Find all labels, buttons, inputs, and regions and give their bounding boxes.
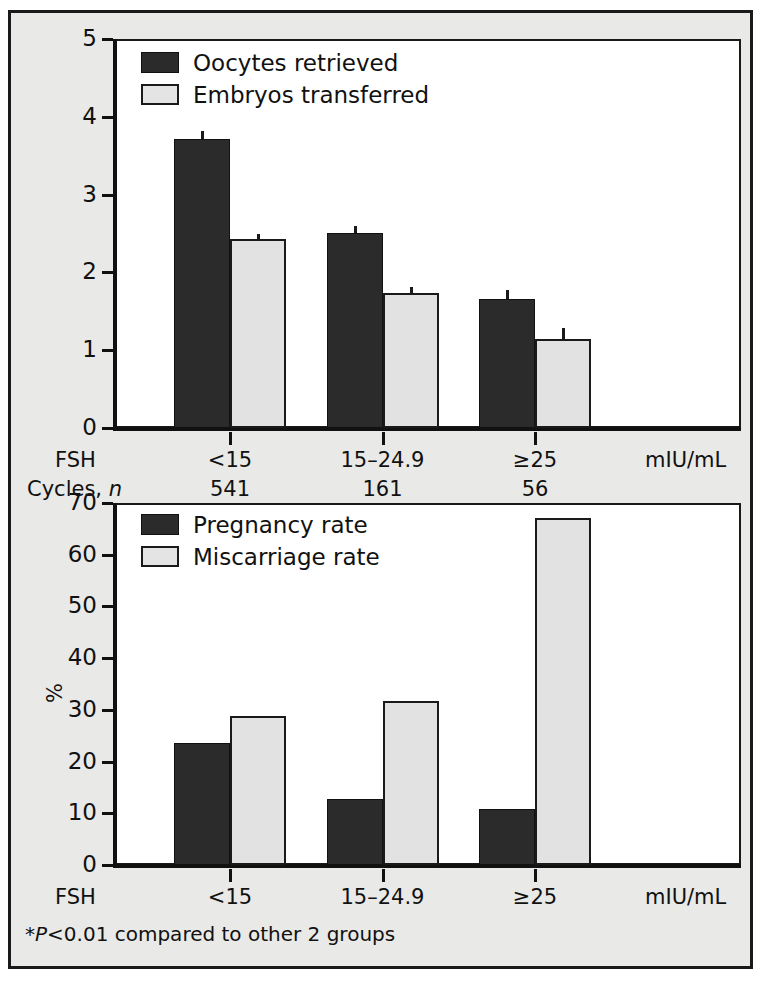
y-tick-label: 4 bbox=[35, 105, 97, 128]
bar bbox=[383, 293, 439, 428]
unit-label-bottom: mIU/mL bbox=[645, 887, 726, 908]
y-tick-label: 0 bbox=[35, 416, 97, 439]
y-axis-title-bottom: % bbox=[45, 683, 66, 703]
y-tick-label: 70 bbox=[35, 491, 97, 514]
bar bbox=[174, 139, 230, 428]
legend-swatch-pregnancy bbox=[141, 514, 179, 535]
bar bbox=[230, 239, 286, 428]
y-tick bbox=[102, 605, 113, 608]
unit-label-top: mIU/mL bbox=[645, 450, 726, 471]
legend-swatch-embryos bbox=[141, 84, 179, 105]
y-tick-label: 10 bbox=[35, 801, 97, 824]
footnote-p: P bbox=[35, 922, 47, 946]
footnote-text: <0.01 compared to other 2 groups bbox=[47, 922, 395, 946]
y-tick-label: 50 bbox=[35, 594, 97, 617]
bar bbox=[174, 743, 230, 865]
y-tick-label: 0 bbox=[35, 853, 97, 876]
x-tick-label: ≥25 bbox=[455, 887, 615, 908]
y-tick-label: 5 bbox=[35, 27, 97, 50]
x-tick-label: ≥25 bbox=[455, 450, 615, 471]
y-tick bbox=[102, 502, 113, 505]
bar bbox=[479, 809, 535, 865]
error-bar bbox=[257, 234, 260, 239]
legend-label-miscarriage: Miscarriage rate bbox=[193, 543, 380, 571]
bar bbox=[535, 339, 591, 428]
error-bar bbox=[410, 287, 413, 292]
y-tick bbox=[102, 709, 113, 712]
x-tick bbox=[382, 432, 385, 445]
y-tick bbox=[102, 812, 113, 815]
x-tick bbox=[229, 869, 232, 882]
x-tick-label: 15–24.9 bbox=[303, 887, 463, 908]
bar bbox=[479, 299, 535, 428]
fsh-row-label-bottom: FSH bbox=[55, 887, 96, 908]
x-tick bbox=[534, 869, 537, 882]
bar bbox=[327, 233, 383, 428]
y-tick-label: 1 bbox=[35, 338, 97, 361]
x-tick-label: <15 bbox=[150, 450, 310, 471]
y-axis-bottom bbox=[113, 503, 117, 868]
chart-panel-bottom: 010203040506070 % Pregnancy rate Miscarr… bbox=[11, 493, 756, 972]
legend-label-pregnancy: Pregnancy rate bbox=[193, 511, 368, 539]
y-tick bbox=[102, 864, 113, 867]
legend-label-oocytes: Oocytes retrieved bbox=[193, 49, 398, 77]
y-tick bbox=[102, 194, 113, 197]
footnote: *P<0.01 compared to other 2 groups bbox=[25, 924, 395, 944]
bar bbox=[535, 518, 591, 865]
figure-container: 012345 Oocytes retrieved Embryos transfe… bbox=[8, 10, 753, 969]
y-tick-label: 60 bbox=[35, 543, 97, 566]
y-tick-label: 3 bbox=[35, 183, 97, 206]
bar bbox=[327, 799, 383, 865]
error-bar bbox=[562, 328, 565, 338]
y-tick bbox=[102, 761, 113, 764]
x-tick bbox=[229, 432, 232, 445]
chart-panel-top: 012345 Oocytes retrieved Embryos transfe… bbox=[11, 13, 756, 493]
y-tick bbox=[102, 349, 113, 352]
y-tick bbox=[102, 116, 113, 119]
y-tick-label: 2 bbox=[35, 260, 97, 283]
y-tick bbox=[102, 271, 113, 274]
y-tick bbox=[102, 38, 113, 41]
x-tick-label: 15–24.9 bbox=[303, 450, 463, 471]
footnote-marker: * bbox=[25, 922, 35, 946]
legend-label-embryos: Embryos transferred bbox=[193, 81, 429, 109]
y-tick-label: 20 bbox=[35, 750, 97, 773]
bar bbox=[383, 701, 439, 865]
error-bar bbox=[354, 226, 357, 232]
x-tick bbox=[534, 432, 537, 445]
x-tick-label: <15 bbox=[150, 887, 310, 908]
legend-swatch-oocytes bbox=[141, 52, 179, 73]
bar bbox=[230, 716, 286, 865]
error-bar bbox=[506, 290, 509, 299]
error-bar bbox=[201, 131, 204, 139]
y-tick bbox=[102, 554, 113, 557]
y-tick bbox=[102, 657, 113, 660]
legend-swatch-miscarriage bbox=[141, 546, 179, 567]
x-tick bbox=[382, 869, 385, 882]
y-tick bbox=[102, 427, 113, 430]
y-axis-top bbox=[113, 39, 117, 431]
fsh-row-label-top: FSH bbox=[55, 450, 96, 471]
y-tick-label: 40 bbox=[35, 646, 97, 669]
